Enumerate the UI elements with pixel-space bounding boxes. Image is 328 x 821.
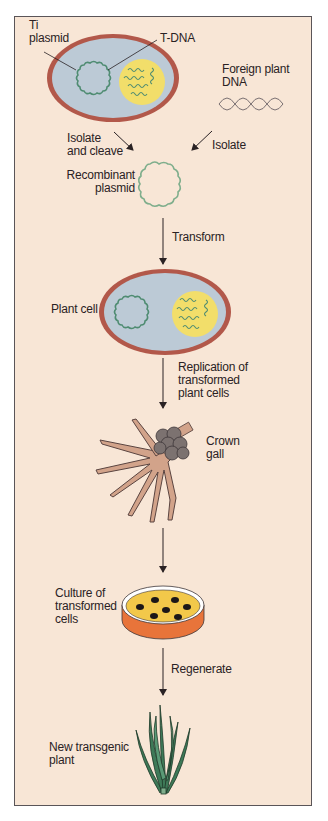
- arrow-isolate: [192, 131, 212, 150]
- label-foreign-dna: Foreign plant DNA: [222, 63, 289, 89]
- label-recombinant-line2: plasmid: [60, 182, 135, 195]
- label-foreign-dna-line2: DNA: [222, 76, 289, 89]
- label-ti-plasmid: Ti plasmid: [29, 19, 69, 45]
- dna-helix-icon: [219, 98, 283, 110]
- label-crown-gall-line2: gall: [206, 448, 240, 461]
- label-replication: Replication of transformed plant cells: [178, 361, 248, 400]
- label-culture: Culture of transformed cells: [55, 587, 117, 626]
- plant-cell-icon: [99, 269, 231, 355]
- label-isolate-cleave-line2: and cleave: [67, 145, 123, 158]
- label-replication-line3: plant cells: [178, 387, 248, 400]
- diagram-artwork: [0, 0, 328, 821]
- label-crown-gall: Crown gall: [206, 435, 240, 461]
- label-regenerate: Regenerate: [171, 663, 232, 676]
- transgenic-plant-icon: [136, 705, 190, 794]
- label-new-plant-line2: plant: [49, 754, 129, 767]
- label-plant-cell: Plant cell: [51, 303, 98, 316]
- label-t-dna: T-DNA: [160, 32, 195, 45]
- label-culture-line3: cells: [55, 613, 117, 626]
- label-new-plant: New transgenic plant: [49, 741, 129, 767]
- nucleus-icon: [119, 59, 165, 105]
- label-transform: Transform: [172, 231, 224, 244]
- label-ti-plasmid-line2: plasmid: [29, 32, 69, 45]
- label-recombinant-plasmid: Recombinant plasmid: [60, 169, 135, 195]
- petri-dish-icon: [122, 586, 204, 639]
- label-isolate-cleave: Isolate and cleave: [67, 132, 123, 158]
- crown-gall-roots-icon: [96, 419, 193, 522]
- recombinant-plasmid-icon: [139, 162, 181, 206]
- bacterium-cell-icon: [47, 34, 179, 122]
- label-isolate: Isolate: [212, 139, 246, 152]
